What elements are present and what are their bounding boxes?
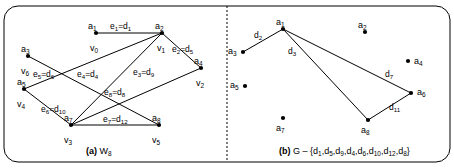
vertex-label-v1: v1 [157, 44, 165, 54]
vertex-label-v2: v2 [196, 79, 204, 89]
edge-d3 [283, 29, 368, 120]
vertex-label-b-a6: a6 [417, 88, 426, 98]
vertex-label-a5: a5 [17, 78, 26, 88]
edge-label-e2: e2=d5 [172, 45, 193, 55]
vertex-label-b-a2: a2 [358, 21, 367, 31]
vertex-label-v3: v3 [64, 136, 72, 146]
edge-label-e8: e8=d8 [104, 88, 125, 98]
vertex-label-v4: v4 [17, 100, 25, 110]
vertex-b-a7 [281, 116, 285, 120]
vertex-label-a8: a8 [152, 114, 161, 124]
edge-label-e7: e7=d12 [103, 115, 128, 125]
vertex-label-b-a1: a1 [276, 18, 285, 28]
edge-label-d2: d2 [254, 31, 262, 41]
panel-b-caption-prefix: (b) [279, 146, 291, 156]
vertex-b-a5 [243, 84, 247, 88]
vertex-label-b-a7: a7 [276, 124, 285, 134]
vertex-label-b-a4: a4 [414, 57, 423, 67]
edge-label-d3: d3 [288, 47, 296, 57]
vertex-label-a2: a2 [155, 22, 164, 32]
removed-edge-d1: d1 [313, 146, 322, 156]
panel-b-removed-edge-list: d1,d5,d9,d4,d6,d10,d12,d8 [313, 146, 407, 156]
figure-container: a1 a2 a3 a4 a5 a7 a8 v0 v1 v6 v2 v4 v3 v… [0, 0, 454, 168]
vertex-label-v5: v5 [152, 136, 160, 146]
vertex-b-a8 [366, 118, 370, 122]
removed-edge-d8: d8 [398, 146, 407, 156]
panel-a-caption-prefix: (a) [86, 146, 97, 156]
vertex-label-a7: a7 [64, 114, 73, 124]
removed-edge-d10: d10 [369, 146, 381, 156]
edge-label-e6: e6=d10 [41, 105, 66, 115]
vertex-label-a4: a4 [194, 57, 203, 67]
edge-label-e4: e4=d4 [77, 70, 98, 80]
panel-a-caption: (a) W8 [86, 146, 112, 157]
vertex-b-a3 [241, 50, 245, 54]
edge-d2 [243, 29, 283, 52]
removed-edge-d5: d5 [324, 146, 333, 156]
removed-edge-d4: d4 [346, 146, 355, 156]
vertex-label-b-a8: a8 [361, 126, 370, 136]
edge-label-d11: d11 [389, 103, 400, 113]
edge-label-e3: e3=d9 [133, 68, 154, 78]
edge-label-e1: e1=d1 [110, 22, 131, 32]
panel-b-caption: (b) G – {d1,d5,d9,d4,d6,d10,d12,d8} [279, 146, 410, 157]
vertex-b-a4 [406, 59, 410, 63]
vertex-label-b-a3: a3 [228, 47, 237, 57]
panel-b-caption-main: G – { [293, 146, 313, 156]
panel-b-caption-close: } [407, 146, 410, 156]
edge-label-d7: d7 [385, 70, 393, 80]
edge-d7 [283, 29, 411, 93]
removed-edge-d12: d12 [383, 146, 395, 156]
vertex-label-v6: v6 [21, 67, 29, 77]
removed-edge-d6: d6 [358, 146, 367, 156]
edge-e8 [24, 33, 162, 89]
vertex-b-a6 [409, 91, 413, 95]
vertex-label-v0: v0 [90, 44, 98, 54]
panel-a-caption-main: W [100, 146, 109, 156]
panel-a-caption-sub: 8 [108, 150, 112, 157]
edge-label-e5: e5=d6 [33, 70, 54, 80]
vertex-label-b-a5: a5 [230, 81, 239, 91]
vertex-label-a1: a1 [88, 22, 97, 32]
vertex-label-a3: a3 [21, 45, 30, 55]
removed-edge-d9: d9 [335, 146, 344, 156]
